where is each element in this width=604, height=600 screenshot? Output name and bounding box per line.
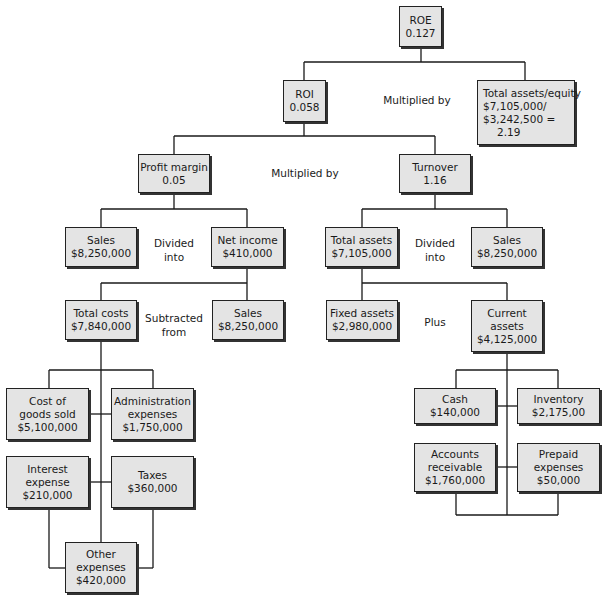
node-value: $8,250,000 [71,247,131,260]
node-label: Interest [27,463,67,476]
node-value: $420,000 [76,574,126,587]
operator-subtracted-from: Subtracted from [144,311,204,339]
node-sales-net-income: Sales $8,250,000 [212,300,284,340]
node-sales-pm: Sales $8,250,000 [65,227,137,267]
node-total-assets-equity: Total assets/equity $7,105,000/ $3,242,5… [477,80,575,145]
node-turnover: Turnover 1.16 [399,154,471,193]
node-value: 0.058 [289,101,319,114]
operator-label: from [144,325,204,339]
node-value: $50,000 [537,474,580,487]
node-label: Turnover [412,161,458,174]
node-value: $8,250,000 [477,247,537,260]
node-interest-expense: Interest expense $210,000 [6,456,89,508]
operator-plus: Plus [415,315,455,329]
node-total-costs: Total costs $7,840,000 [65,300,137,340]
node-value: $1,760,000 [425,474,485,487]
node-label: Inventory [533,393,583,406]
node-other-expenses: Other expenses $420,000 [65,542,137,593]
node-label: Sales [234,307,262,320]
node-label: Prepaid [539,448,578,461]
node-value: $140,000 [430,406,480,419]
node-label: Cost of [29,395,66,408]
node-total-assets: Total assets $7,105,000 [325,227,398,267]
node-label: Administration [114,395,191,408]
node-profit-margin: Profit margin 0.05 [138,154,210,193]
node-value: $210,000 [22,489,72,502]
node-fixed-assets: Fixed assets $2,980,000 [326,300,398,340]
node-sales-turnover: Sales $8,250,000 [471,227,543,267]
node-label: expenses [534,461,584,474]
node-value: $360,000 [127,482,177,495]
operator-assets-divided-into: Divided into [410,236,460,264]
node-label: Fixed assets [330,307,394,320]
node-label: receivable [428,461,482,474]
node-net-income: Net income $410,000 [211,227,284,267]
node-label: expense [25,476,69,489]
operator-roi-multiplied-by: Multiplied by [372,93,462,107]
operator-label: into [410,250,460,264]
operator-pm-multiplied-by: Multiplied by [260,166,350,180]
node-taxes: Taxes $360,000 [111,456,194,508]
node-label: ROE [409,14,431,27]
node-label: Accounts [431,448,479,461]
node-value: $3,242,500 = [483,113,555,126]
node-value: $1,750,000 [122,421,182,434]
node-value: 0.127 [405,27,435,40]
node-value: $7,840,000 [71,320,131,333]
node-label: Other [86,548,116,561]
operator-label: Subtracted [144,311,204,325]
node-value: $2,175,00 [532,406,585,419]
node-cash: Cash $140,000 [414,388,496,424]
node-value: $5,100,000 [17,421,77,434]
node-label: expenses [128,408,178,421]
node-value: $7,105,000/ [483,100,547,113]
node-label: assets [490,320,523,333]
node-label: Current [487,307,526,320]
node-roe: ROE 0.127 [399,6,442,47]
node-prepaid-expenses: Prepaid expenses $50,000 [517,443,600,492]
node-administration-expenses: Administration expenses $1,750,000 [111,388,194,440]
operator-label: Divided [149,236,199,250]
node-value: 2.19 [483,126,520,139]
operator-label: Plus [415,315,455,329]
node-value: 0.05 [162,174,185,187]
node-value: $7,105,000 [331,247,391,260]
node-value: $2,980,000 [332,320,392,333]
node-value: 1.16 [423,174,446,187]
node-accounts-receivable: Accounts receivable $1,760,000 [414,443,496,492]
node-label: Cash [442,393,468,406]
node-value: $4,125,000 [477,333,537,346]
node-label: goods sold [19,408,75,421]
node-label: Total assets [331,234,392,247]
node-roi: ROI 0.058 [283,80,326,122]
node-label: Profit margin [140,161,208,174]
node-value: $8,250,000 [218,320,278,333]
operator-label: Divided [410,236,460,250]
operator-sales-divided-into: Divided into [149,236,199,264]
node-label: ROI [295,88,314,101]
node-label: Total costs [73,307,128,320]
node-label: Sales [493,234,521,247]
node-value: $410,000 [222,247,272,260]
node-label: expenses [76,561,126,574]
node-label: Sales [87,234,115,247]
operator-label: into [149,250,199,264]
node-inventory: Inventory $2,175,00 [517,388,600,424]
node-label: Taxes [138,469,167,482]
operator-label: Multiplied by [260,166,350,180]
operator-label: Multiplied by [372,93,462,107]
node-label: Total assets/equity [483,87,581,100]
node-current-assets: Current assets $4,125,000 [471,300,543,352]
node-label: Net income [217,234,277,247]
node-cost-of-goods-sold: Cost of goods sold $5,100,000 [6,388,89,440]
roe-decomposition-diagram: ROE 0.127 ROI 0.058 Total assets/equity … [0,0,604,600]
